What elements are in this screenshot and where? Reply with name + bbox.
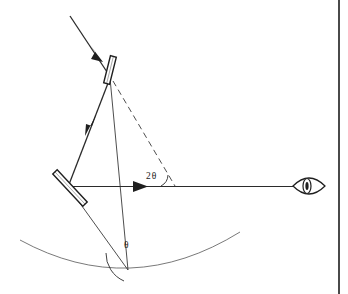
angle-arc-2theta [161, 175, 168, 186]
lower-mirror [53, 170, 87, 206]
observation-ray-arrowhead [133, 181, 148, 192]
reflected-ray [68, 78, 110, 187]
page-edge [338, 0, 340, 294]
graduated-arc [20, 232, 240, 268]
incident-ray [70, 16, 111, 78]
diagram-svg [0, 0, 348, 294]
incident-ray-arrowhead [90, 45, 103, 62]
angle-arc-theta [106, 253, 124, 281]
eye-pupil [305, 182, 308, 190]
dashed-reference-line [113, 81, 175, 186]
figure-canvas: 2θ θ [0, 0, 348, 294]
observer-eye [293, 178, 325, 194]
angle-label-theta: θ [124, 240, 129, 250]
angle-label-2theta: 2θ [146, 171, 157, 181]
